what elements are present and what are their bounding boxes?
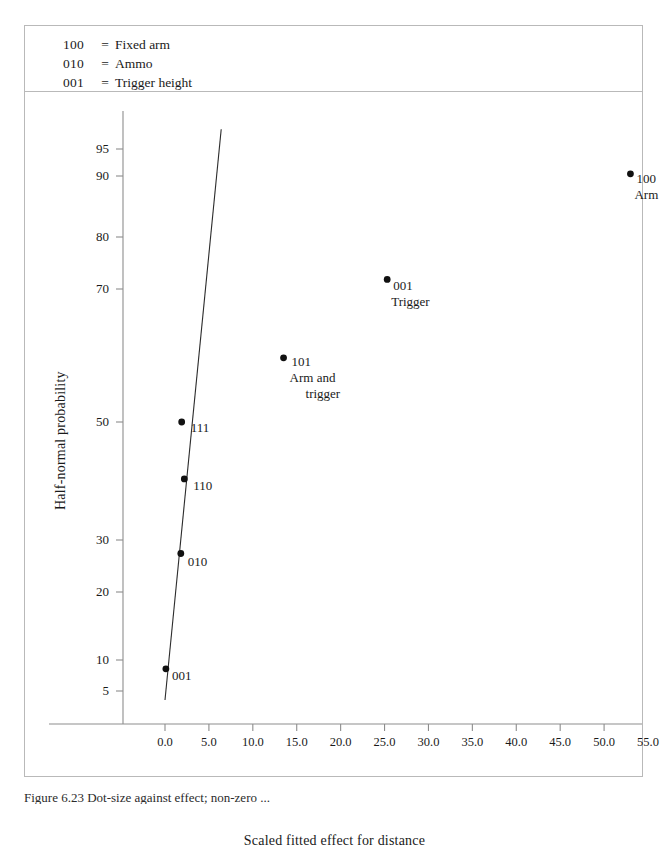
x-tick-label: 50.0 — [581, 736, 627, 749]
y-tick-label: 20 — [69, 585, 109, 598]
y-tick-label: 50 — [69, 415, 109, 428]
point-name: Trigger — [391, 294, 430, 310]
point-code: 001 — [393, 278, 430, 294]
point-label-001-5: 001Trigger — [393, 278, 430, 310]
data-point — [177, 550, 184, 557]
point-label-101-4: 101Arm andtrigger — [292, 354, 341, 402]
x-tick-label: 15.0 — [274, 736, 320, 749]
x-tick-label: 45.0 — [537, 736, 583, 749]
legend-box: 100=Fixed arm 010=Ammo 001=Trigger heigh… — [25, 26, 642, 92]
legend-equals: = — [95, 38, 115, 52]
point-code: 010 — [188, 554, 208, 570]
legend-item-010: 010=Ammo — [63, 57, 153, 71]
data-point — [627, 170, 634, 177]
x-tick-label: 30.0 — [405, 736, 451, 749]
y-tick-label: 30 — [69, 533, 109, 546]
x-tick-label: 10.0 — [230, 736, 276, 749]
x-tick-label: 55.0 — [625, 736, 666, 749]
point-name: trigger — [306, 386, 341, 402]
point-label-100-6: 100Arm — [636, 171, 658, 203]
x-tick-label: 40.0 — [493, 736, 539, 749]
data-point — [162, 665, 169, 672]
legend-equals: = — [95, 57, 115, 71]
data-point — [280, 354, 287, 361]
data-point — [181, 476, 188, 483]
plot-area: Half-normal probability Scaled fitted ef… — [25, 92, 644, 778]
y-tick-label: 95 — [69, 142, 109, 155]
point-code: 100 — [636, 171, 658, 187]
y-tick-label: 10 — [69, 653, 109, 666]
legend-label: Fixed arm — [115, 38, 170, 52]
data-point — [384, 276, 391, 283]
x-tick-label: 5.0 — [186, 736, 232, 749]
y-tick-label: 80 — [69, 230, 109, 243]
point-label-110: 110 — [193, 478, 212, 494]
x-tick-label: 20.0 — [318, 736, 364, 749]
x-axis-title: Scaled fitted effect for distance — [25, 833, 644, 849]
legend-code: 010 — [63, 57, 95, 71]
figure-frame: 100=Fixed arm 010=Ammo 001=Trigger heigh… — [24, 25, 643, 777]
y-axis-title: Half-normal probability — [53, 371, 69, 510]
point-label-111: 111 — [191, 420, 210, 436]
y-tick-label: 90 — [69, 169, 109, 182]
point-code: 110 — [193, 478, 212, 494]
figure-caption: Figure 6.23 Dot-size against effect; non… — [24, 790, 584, 804]
point-code: 111 — [191, 420, 210, 436]
x-tick-label: 25.0 — [362, 736, 408, 749]
point-name: Arm and — [290, 370, 341, 386]
point-label-010: 010 — [188, 554, 208, 570]
legend-item-100: 100=Fixed arm — [63, 38, 170, 52]
fitted-line — [165, 129, 221, 700]
data-point — [178, 419, 185, 426]
legend-code: 100 — [63, 38, 95, 52]
legend-equals: = — [95, 76, 115, 90]
y-tick-label: 70 — [69, 282, 109, 295]
legend-label: Trigger height — [115, 76, 192, 90]
legend-code: 001 — [63, 76, 95, 90]
half-normal-plot — [25, 92, 644, 778]
legend-item-001: 001=Trigger height — [63, 76, 192, 90]
y-tick-label: 5 — [69, 684, 109, 697]
point-label-001: 001 — [172, 668, 192, 684]
x-tick-label: 0.0 — [142, 736, 188, 749]
x-tick-label: 35.0 — [449, 736, 495, 749]
legend-label: Ammo — [115, 57, 153, 71]
point-name: Arm — [634, 187, 658, 203]
point-code: 001 — [172, 668, 192, 684]
point-code: 101 — [292, 354, 341, 370]
